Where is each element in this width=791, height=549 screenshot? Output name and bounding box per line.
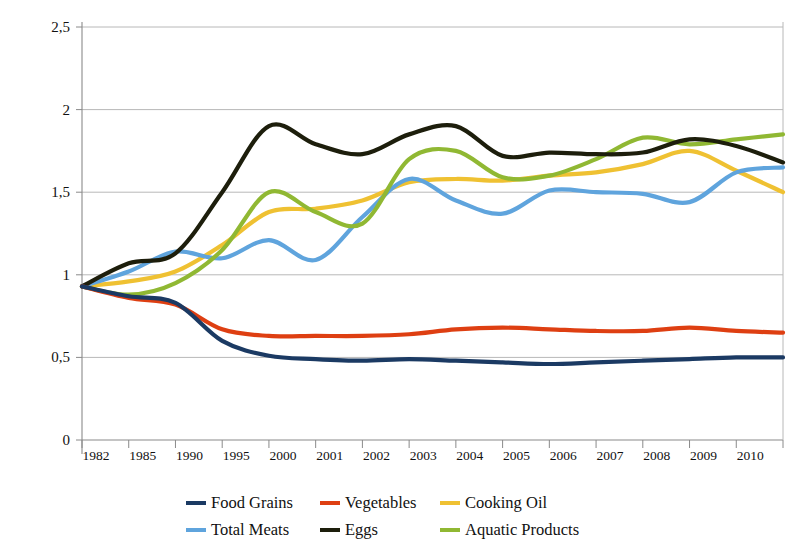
series-line-total-meats [82, 167, 783, 286]
x-tick-label: 2006 [550, 448, 577, 463]
y-tick-label: 1 [63, 267, 71, 283]
x-tick-label: 2002 [363, 448, 390, 463]
series-layer [82, 124, 783, 364]
chart-legend: Food GrainsVegetablesCooking OilTotal Me… [186, 493, 579, 539]
x-tick-label: 2010 [737, 448, 764, 463]
y-tick-label: 1,5 [51, 184, 70, 200]
series-line-aquatic-products [82, 134, 783, 294]
x-tick-label: 2009 [690, 448, 717, 463]
x-tick-label: 1995 [223, 448, 250, 463]
legend-label-vegetables[interactable]: Vegetables [345, 493, 416, 512]
y-tick-label: 0,5 [51, 349, 70, 365]
x-tick-label: 1990 [176, 448, 203, 463]
y-tick-label: 2 [63, 102, 71, 118]
x-tick-label: 2007 [597, 448, 624, 463]
x-tick-label: 1982 [83, 448, 110, 463]
legend-label-aquatic-products[interactable]: Aquatic Products [465, 520, 579, 539]
chart-root: % change with respect to 1981 reference … [0, 0, 791, 549]
x-tick-label: 2005 [503, 448, 530, 463]
legend-label-food-grains[interactable]: Food Grains [211, 493, 293, 512]
y-axis-ticks: 00,511,522,5 [51, 19, 82, 448]
x-axis-ticks: 1982198519901995200020012002200320042005… [82, 440, 783, 463]
series-line-food-grains [82, 286, 783, 364]
x-tick-label: 2008 [643, 448, 670, 463]
line-chart: 00,511,522,5 198219851990199520002001200… [0, 0, 791, 549]
x-tick-label: 1985 [129, 448, 156, 463]
legend-label-total-meats[interactable]: Total Meats [211, 520, 289, 539]
x-tick-label: 2004 [456, 448, 483, 463]
legend-label-cooking-oil[interactable]: Cooking Oil [465, 493, 547, 512]
series-line-cooking-oil [82, 151, 783, 287]
legend-label-eggs[interactable]: Eggs [345, 520, 378, 539]
y-tick-label: 2,5 [51, 19, 70, 35]
x-tick-label: 2001 [316, 448, 343, 463]
x-tick-label: 2000 [269, 448, 296, 463]
y-tick-label: 0 [63, 432, 71, 448]
gridlines [82, 22, 783, 454]
x-tick-label: 2003 [410, 448, 437, 463]
